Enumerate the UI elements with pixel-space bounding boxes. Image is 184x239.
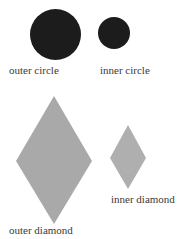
outer-circle-shape [29, 8, 82, 61]
outer-diamond-shape [14, 95, 94, 225]
outer-circle-label: outer circle [9, 64, 59, 76]
outer-diamond-label: outer diamond [9, 224, 73, 236]
inner-circle-label: inner circle [100, 64, 150, 76]
inner-circle-shape [97, 16, 131, 50]
inner-diamond-label: inner diamond [111, 193, 175, 205]
inner-diamond-shape [108, 124, 148, 190]
